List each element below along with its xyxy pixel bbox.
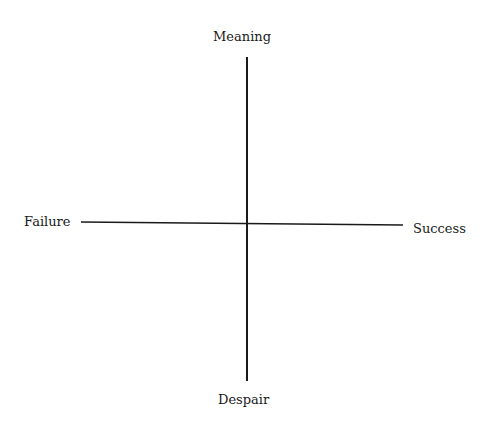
axes-drawing	[0, 0, 489, 428]
horizontal-axis	[81, 222, 403, 225]
label-meaning: Meaning	[213, 29, 271, 45]
label-success: Success	[413, 221, 466, 237]
label-despair: Despair	[218, 392, 269, 408]
label-failure: Failure	[24, 214, 70, 230]
